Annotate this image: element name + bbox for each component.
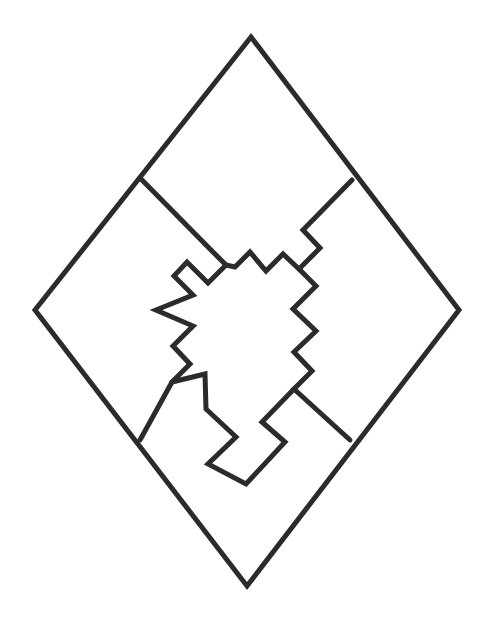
diamond-zigzag-drawing [0, 0, 492, 634]
figure-canvas [0, 0, 492, 634]
canvas-background [0, 0, 492, 634]
